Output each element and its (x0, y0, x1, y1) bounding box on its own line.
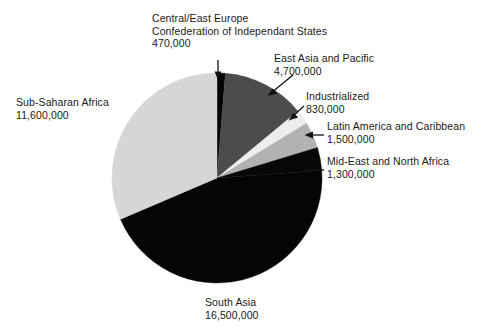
slice-value-ceec: 470,000 (152, 37, 327, 50)
slice-label-ssa-name: Sub-Saharan Africa (16, 96, 109, 108)
slice-label-east-asia-pacific: East Asia and Pacific 4,700,000 (274, 52, 374, 77)
slice-label-latin-america-caribbean: Latin America and Caribbean 1,500,000 (327, 120, 465, 145)
slice-value-sa: 16,500,000 (205, 309, 259, 322)
slice-label-ind-name: Industrialized (306, 90, 369, 102)
slice-label-mena-name: Mid-East and North Africa (327, 155, 449, 167)
slice-label-mid-east-north-africa: Mid-East and North Africa 1,300,000 (327, 155, 449, 180)
leader-line-eap (271, 75, 293, 93)
slice-label-lac-name: Latin America and Caribbean (327, 120, 465, 132)
slice-label-ceec-line1: Central/East Europe (152, 12, 248, 24)
slice-value-ssa: 11,600,000 (16, 109, 109, 122)
pie-chart-figure: Central/East Europe Confederation of Ind… (0, 0, 482, 331)
slice-value-ind: 830,000 (306, 103, 369, 116)
pie-slice-group (112, 73, 322, 283)
slice-value-lac: 1,500,000 (327, 133, 465, 146)
slice-label-industrialized: Industrialized 830,000 (306, 90, 369, 115)
slice-label-ceec-line2: Confederation of Independant States (152, 25, 327, 37)
slice-label-eap-name: East Asia and Pacific (274, 52, 374, 64)
slice-label-south-asia: South Asia 16,500,000 (205, 296, 259, 321)
slice-label-central-east-europe: Central/East Europe Confederation of Ind… (152, 12, 327, 50)
slice-value-eap: 4,700,000 (274, 65, 374, 78)
slice-label-sub-saharan-africa: Sub-Saharan Africa 11,600,000 (16, 96, 109, 121)
slice-label-sa-name: South Asia (205, 296, 256, 308)
slice-value-mena: 1,300,000 (327, 168, 449, 181)
